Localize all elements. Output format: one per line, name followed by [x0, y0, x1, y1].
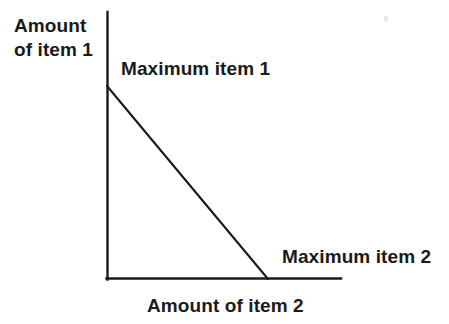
maximum-item-2-label: Maximum item 2: [282, 245, 431, 269]
y-axis-title-line-1: Amount: [14, 15, 86, 36]
frontier-line: [107, 86, 268, 279]
scan-artifact-speck: [384, 16, 388, 21]
x-axis-title: Amount of item 2: [147, 294, 304, 318]
y-axis-title-line-2: of item 1: [14, 38, 93, 62]
ppf-diagram: Amountof item 1 Maximum item 1 Maximum i…: [0, 0, 449, 324]
maximum-item-1-label: Maximum item 1: [121, 57, 270, 81]
y-axis-title: Amountof item 1: [14, 14, 93, 62]
